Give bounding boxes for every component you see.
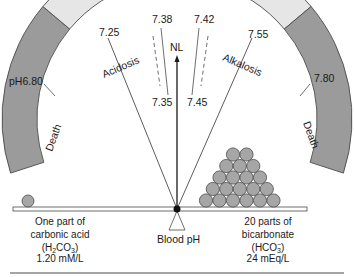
label-ph-755: 7.55: [248, 28, 269, 40]
bicarbonate-spheres: [199, 148, 280, 207]
left-death-label: Death: [43, 122, 64, 153]
acid-caption-concentration: 1.20 mM/L: [36, 253, 84, 264]
acid-caption-line2: carbonic acid: [31, 229, 90, 240]
label-ph-780: 7.80: [314, 72, 335, 84]
bicarbonate-caption: 20 parts of bicarbonate (HCO3−) 24 mEq/L: [242, 216, 295, 264]
bicarb-caption-line1: 20 parts of: [244, 216, 291, 227]
acid-caption: One part of carbonic acid (H2CO3) 1.20 m…: [31, 216, 90, 264]
tick-742: [192, 28, 199, 95]
left-death-band: [2, 7, 70, 174]
label-ph-745: 7.45: [187, 96, 208, 108]
label-ph-742: 7.42: [194, 13, 215, 25]
leader-780: [300, 84, 310, 96]
label-ph-725: 7.25: [99, 26, 120, 38]
balance-beam: [13, 207, 307, 211]
acidosis-label: Acidosis: [100, 54, 141, 80]
bicarb-caption-concentration: 24 mEq/L: [247, 253, 290, 264]
label-ph-680: pH6.80: [9, 75, 43, 87]
label-ph-738: 7.38: [152, 13, 173, 25]
tick-738: [161, 28, 168, 95]
pointer-arrow-icon: [175, 55, 180, 62]
bicarb-caption-line2: bicarbonate: [242, 229, 295, 240]
normal-pointer-label: NL: [170, 41, 184, 53]
acid-sphere: [22, 195, 34, 207]
fulcrum-label: Blood pH: [157, 233, 200, 245]
acid-base-diagram: Acidosis Alkalosis Death Death pH6.80 7.…: [0, 0, 354, 277]
pivot-icon: [174, 206, 181, 213]
alkalosis-label: Alkalosis: [221, 51, 264, 78]
acid-caption-line1: One part of: [35, 216, 85, 227]
right-dashed-marker: [201, 36, 208, 86]
left-dashed-marker: [153, 36, 160, 86]
label-ph-735: 7.35: [152, 96, 173, 108]
leader-680: [44, 84, 55, 96]
right-death-band: [284, 7, 352, 174]
fulcrum-triangle: [169, 211, 185, 230]
